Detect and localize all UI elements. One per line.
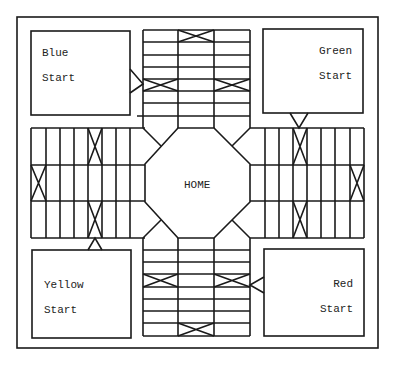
green-start-label-1: Green: [319, 46, 352, 57]
red-start-label-2: Start: [320, 304, 353, 315]
right-track: [250, 128, 364, 238]
yellow-entry-arrow-icon: [88, 238, 102, 250]
home-label: HOME: [184, 180, 210, 191]
safe-cell-icon: [214, 274, 250, 287]
red-start-label-1: Red: [333, 279, 353, 290]
safe-cell-icon: [178, 30, 214, 42]
yellow-start-box[interactable]: [32, 250, 131, 338]
safe-cell-icon: [143, 274, 178, 287]
safe-cell-icon: [88, 128, 102, 165]
safe-cell-icon: [293, 128, 307, 165]
safe-cell-icon: [214, 79, 250, 91]
blue-entry-arrow-icon: [130, 69, 143, 93]
safe-cell-icon: [350, 165, 364, 201]
top-track: [137, 30, 250, 128]
safe-cell-icon: [143, 79, 178, 91]
safe-cell-icon: [88, 201, 102, 238]
safe-cell-icon: [178, 323, 214, 336]
left-track: [31, 128, 145, 238]
yellow-start-label-1: Yellow: [44, 280, 84, 291]
safe-cell-icon: [293, 201, 307, 238]
red-start-box[interactable]: [264, 249, 364, 336]
blue-start-label-1: Blue: [42, 48, 68, 59]
blue-start-label-2: Start: [42, 73, 75, 84]
yellow-start-label-2: Start: [44, 305, 77, 316]
safe-cell-icon: [31, 165, 46, 201]
bottom-track: [143, 238, 250, 336]
red-entry-arrow-icon: [250, 277, 264, 293]
green-entry-arrow-icon: [290, 113, 308, 128]
green-start-label-2: Start: [319, 71, 352, 82]
